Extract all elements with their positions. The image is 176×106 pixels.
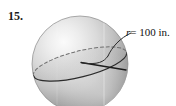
radius-value: 100 in.	[139, 26, 170, 38]
radius-equals: =	[130, 26, 136, 38]
sphere-figure	[0, 0, 176, 106]
radius-label: r= 100 in.	[126, 27, 170, 38]
figure-page: 15.	[0, 0, 176, 106]
